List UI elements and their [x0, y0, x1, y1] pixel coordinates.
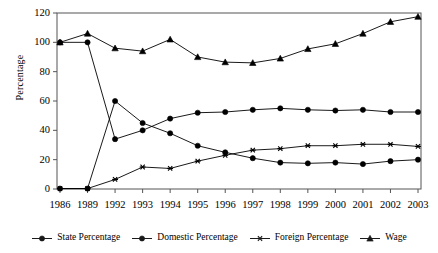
- x-tick-label: 1986: [50, 200, 71, 211]
- y-tick-label: 60: [24, 96, 50, 107]
- data-point-marker: [415, 157, 420, 162]
- data-point-marker: [112, 45, 118, 51]
- data-point-marker: [305, 107, 310, 112]
- series-3: [57, 142, 421, 191]
- x-tick-label: 1992: [105, 200, 126, 211]
- chart-legend: State PercentageDomestic PercentageForei…: [0, 228, 438, 248]
- data-point-marker: [305, 161, 310, 166]
- legend-item[interactable]: Foreign Percentage: [249, 233, 349, 244]
- data-point-marker: [278, 106, 283, 111]
- series-line: [60, 17, 418, 63]
- data-point-marker: [85, 40, 90, 45]
- x-tick-label: 1999: [297, 200, 318, 211]
- data-point-marker: [223, 109, 228, 114]
- data-point-marker: [168, 116, 173, 121]
- legend-label: Domestic Percentage: [157, 233, 237, 243]
- data-point-marker: [140, 128, 145, 133]
- chart-container: Percentage 020406080100120 1986198919921…: [0, 0, 438, 253]
- data-point-marker: [388, 109, 393, 114]
- x-tick-label: 1995: [187, 200, 208, 211]
- y-tick-label: 100: [24, 37, 50, 48]
- data-point-marker: [112, 137, 117, 142]
- legend-label: Foreign Percentage: [275, 233, 349, 243]
- plot-frame: [57, 13, 421, 189]
- triangle-marker-icon: [359, 233, 381, 244]
- data-point-marker: [194, 54, 200, 60]
- data-point-marker: [223, 150, 228, 155]
- y-tick-label: 80: [24, 66, 50, 77]
- legend-item[interactable]: State Percentage: [31, 233, 120, 244]
- x-tick-label: 1996: [215, 200, 236, 211]
- data-point-marker: [277, 55, 283, 61]
- series-line: [60, 42, 418, 139]
- y-axis-title: Percentage: [14, 23, 25, 133]
- x-tick-label: 1989: [77, 200, 98, 211]
- data-point-marker: [332, 41, 338, 47]
- asterisk-marker-icon: [249, 233, 271, 244]
- series-4: [57, 13, 421, 65]
- data-point-marker: [167, 36, 173, 42]
- y-tick-label: 120: [24, 8, 50, 19]
- legend-label: Wage: [385, 233, 406, 243]
- data-point-marker: [333, 160, 338, 165]
- data-point-marker: [140, 120, 145, 125]
- data-point-marker: [195, 143, 200, 148]
- x-tick-label: 2000: [325, 200, 346, 211]
- circle-marker-icon: [131, 233, 153, 244]
- x-tick-label: 1993: [132, 200, 153, 211]
- data-point-marker: [415, 109, 420, 114]
- legend-item[interactable]: Domestic Percentage: [131, 233, 237, 244]
- data-point-marker: [250, 107, 255, 112]
- data-point-marker: [140, 235, 145, 240]
- legend-item[interactable]: Wage: [359, 233, 406, 244]
- legend-label: State Percentage: [57, 233, 120, 243]
- data-point-marker: [360, 107, 365, 112]
- x-tick-label: 2003: [408, 200, 429, 211]
- series-2: [57, 40, 420, 142]
- data-point-marker: [333, 108, 338, 113]
- x-tick-label: 2002: [380, 200, 401, 211]
- data-point-marker: [278, 160, 283, 165]
- data-point-marker: [388, 159, 393, 164]
- data-point-marker: [250, 156, 255, 161]
- data-point-marker: [84, 30, 90, 36]
- data-point-marker: [415, 13, 421, 19]
- data-point-marker: [360, 161, 365, 166]
- data-point-marker: [112, 98, 117, 103]
- data-point-marker: [40, 235, 45, 240]
- plot-area: [0, 0, 438, 253]
- y-tick-label: 0: [24, 184, 50, 195]
- data-point-marker: [195, 110, 200, 115]
- series-1: [57, 98, 420, 191]
- data-point-marker: [360, 30, 366, 36]
- x-tick-label: 2001: [352, 200, 373, 211]
- circle-marker-icon: [31, 233, 53, 244]
- data-point-marker: [168, 131, 173, 136]
- y-tick-label: 20: [24, 154, 50, 165]
- x-tick-label: 1994: [160, 200, 181, 211]
- x-tick-label: 1998: [270, 200, 291, 211]
- x-tick-label: 1997: [242, 200, 263, 211]
- y-tick-label: 40: [24, 125, 50, 136]
